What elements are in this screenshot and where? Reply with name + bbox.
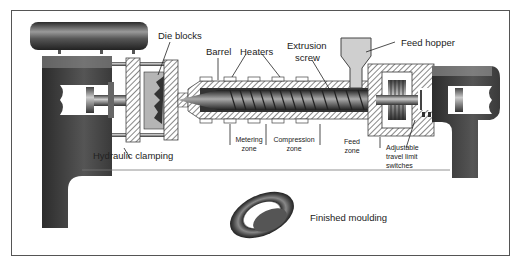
label-finished-moulding: Finished moulding (310, 212, 387, 223)
label-feed-hopper: Feed hopper (401, 37, 455, 48)
label-extrusion-screw-1: Extrusion (287, 40, 327, 51)
label-metering-zone: Meteringzone (230, 135, 268, 153)
label-heaters: Heaters (240, 46, 273, 57)
label-compression-zone: Compressionzone (268, 135, 320, 153)
label-feed-zone: Feedzone (340, 137, 364, 155)
label-extrusion-screw-2: screw (295, 52, 320, 63)
left-clamp-unit (30, 22, 178, 228)
label-limit-switches: Adjustabletravel limitswitches (386, 143, 436, 170)
finished-moulding-part (223, 183, 302, 248)
label-barrel: Barrel (206, 46, 231, 57)
feed-hopper (341, 38, 371, 88)
label-die-blocks: Die blocks (158, 30, 202, 41)
label-hydraulic-clamping: Hydraulic clamping (93, 150, 173, 161)
